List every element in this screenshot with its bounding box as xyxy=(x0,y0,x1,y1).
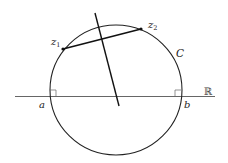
label-real-line: ℝ xyxy=(204,86,213,97)
label-a: a xyxy=(39,99,45,110)
label-z2: z2 xyxy=(147,19,157,32)
label-b: b xyxy=(184,99,190,110)
point-z2 xyxy=(139,27,142,30)
circle-c xyxy=(50,25,182,155)
label-circle-c: C xyxy=(176,47,184,59)
right-angle-mark-b xyxy=(175,90,181,97)
point-z1 xyxy=(61,47,64,50)
perpendicular-bisector xyxy=(95,13,119,106)
right-angle-mark-a xyxy=(50,90,56,97)
label-z1: z1 xyxy=(50,36,60,49)
diagram-canvas: z1 z2 C a b ℝ xyxy=(0,0,228,163)
